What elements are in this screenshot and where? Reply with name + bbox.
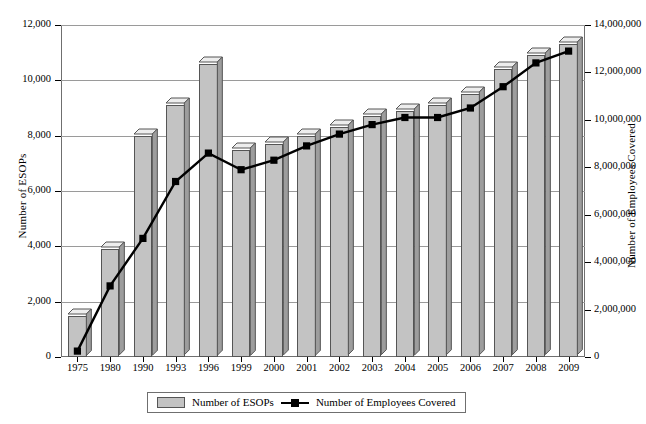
y-tick-label-right: 0 xyxy=(594,351,646,362)
y-tick-label-right: 14,000,000 xyxy=(594,19,646,30)
legend-label-employees: Number of Employees Covered xyxy=(316,396,456,408)
y-tick-right xyxy=(585,310,591,311)
legend-line-marker-icon xyxy=(281,398,309,407)
y-tick-right xyxy=(585,357,591,358)
y-tick-label-right: 10,000,000 xyxy=(594,114,646,125)
chart-legend: Number of ESOPs Number of Employees Cove… xyxy=(147,392,466,413)
y-tick-label-right: 4,000,000 xyxy=(594,256,646,267)
line-marker xyxy=(336,131,343,138)
y-tick-label-left: 8,000 xyxy=(0,130,51,141)
line-marker xyxy=(565,48,572,55)
line-marker xyxy=(74,348,81,355)
trend-line xyxy=(77,51,568,351)
y-tick-label-left: 4,000 xyxy=(0,240,51,251)
y-axis-right-title: Number of Employees Covered xyxy=(625,128,637,268)
line-series xyxy=(61,25,585,357)
line-marker xyxy=(401,114,408,121)
y-tick-right xyxy=(585,262,591,263)
line-marker xyxy=(369,121,376,128)
y-tick-right xyxy=(585,120,591,121)
line-marker xyxy=(500,83,507,90)
y-tick-label-left: 12,000 xyxy=(0,19,51,30)
x-tick-label: 2009 xyxy=(549,363,589,374)
y-tick-right xyxy=(585,72,591,73)
y-tick-label-left: 0 xyxy=(0,351,51,362)
line-marker xyxy=(303,142,310,149)
y-tick-label-left: 10,000 xyxy=(0,74,51,85)
plot-area xyxy=(61,25,585,357)
legend-label-esops: Number of ESOPs xyxy=(192,396,274,408)
line-marker xyxy=(107,282,114,289)
line-marker xyxy=(434,114,441,121)
y-tick-right xyxy=(585,25,591,26)
line-marker xyxy=(238,166,245,173)
line-marker xyxy=(532,59,539,66)
line-marker xyxy=(467,104,474,111)
y-tick-label-right: 2,000,000 xyxy=(594,304,646,315)
y-tick-label-right: 8,000,000 xyxy=(594,161,646,172)
y-tick-label-right: 6,000,000 xyxy=(594,209,646,220)
y-tick-right xyxy=(585,215,591,216)
y-tick-label-left: 2,000 xyxy=(0,296,51,307)
legend-bar-swatch-icon xyxy=(157,397,185,408)
line-marker xyxy=(139,235,146,242)
y-tick-right xyxy=(585,167,591,168)
line-marker xyxy=(270,157,277,164)
line-marker xyxy=(205,150,212,157)
y-tick-left xyxy=(55,357,61,358)
line-marker xyxy=(172,178,179,185)
y-tick-label-left: 6,000 xyxy=(0,185,51,196)
y-tick-label-right: 12,000,000 xyxy=(594,66,646,77)
